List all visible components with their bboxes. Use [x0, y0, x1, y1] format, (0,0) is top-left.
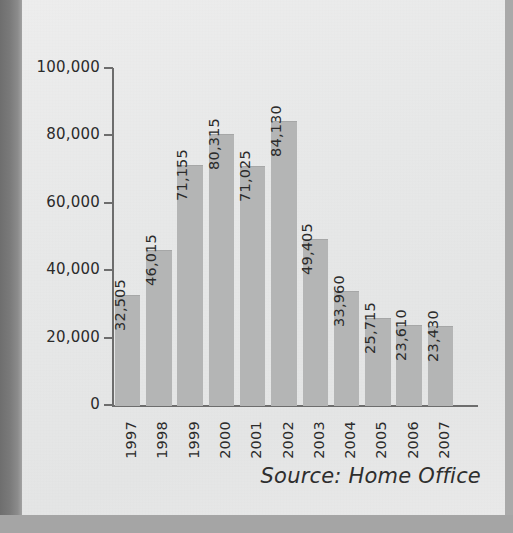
bar-slot: 23,430: [425, 68, 456, 406]
x-axis-tick-label: 2000: [206, 412, 237, 448]
bar: [177, 165, 203, 406]
bar-value-label: 33,960: [331, 275, 347, 327]
bar-value-label: 49,405: [299, 223, 315, 275]
bar-value-label: 46,015: [143, 234, 159, 286]
bar-slot: 49,405: [300, 68, 331, 406]
bar-chart: 020,00040,00060,00080,000100,000 32,5054…: [22, 0, 505, 515]
y-axis-tick-label: 60,000: [24, 193, 100, 211]
x-axis-tick-label: 2007: [425, 412, 456, 448]
y-axis-tick-label: 0: [24, 395, 100, 413]
x-axis-tick-label: 2006: [394, 412, 425, 448]
bar-value-label: 80,315: [206, 118, 222, 170]
bar-slot: 32,505: [112, 68, 143, 406]
bar-slot: 71,155: [175, 68, 206, 406]
x-axis-tick-label: 1999: [175, 412, 206, 448]
bar: [209, 134, 235, 406]
y-axis-tick-label: 40,000: [24, 260, 100, 278]
bar-slot: 25,715: [362, 68, 393, 406]
y-axis-tick-label: 100,000: [24, 58, 100, 76]
bar-value-label: 23,610: [393, 309, 409, 361]
bar-slot: 84,130: [269, 68, 300, 406]
x-axis-tick-label: 2004: [331, 412, 362, 448]
x-axis-tick-label: 2003: [300, 412, 331, 448]
bar-value-label: 71,155: [174, 149, 190, 201]
bar-value-label: 84,130: [268, 106, 284, 158]
y-axis-tick-label: 20,000: [24, 328, 100, 346]
bar-slot: 71,025: [237, 68, 268, 406]
x-axis-tick-label: 2002: [269, 412, 300, 448]
bar-series-group: 32,50546,01571,15580,31571,02584,13049,4…: [112, 68, 478, 406]
bar-slot: 33,960: [331, 68, 362, 406]
bar-slot: 80,315: [206, 68, 237, 406]
bar-value-label: 71,025: [237, 150, 253, 202]
page-gutter-shadow: [0, 0, 22, 533]
page-edge-right: [505, 0, 513, 533]
y-axis-tick-label: 80,000: [24, 125, 100, 143]
x-axis-tick-label: 2001: [237, 412, 268, 448]
x-axis-tick-label: 1998: [143, 412, 174, 448]
bar-slot: 46,015: [143, 68, 174, 406]
bar-value-label: 32,505: [112, 279, 128, 331]
x-axis-tick-label: 1997: [112, 412, 143, 448]
paper-page: 020,00040,00060,00080,000100,000 32,5054…: [22, 0, 505, 515]
x-axis-tick-label: 2005: [362, 412, 393, 448]
bar-value-label: 25,715: [362, 302, 378, 354]
scanned-page-figure: 020,00040,00060,00080,000100,000 32,5054…: [0, 0, 513, 533]
bar: [271, 121, 297, 406]
source-note: Source: Home Office: [261, 464, 481, 488]
bar-value-label: 23,430: [425, 310, 441, 362]
page-edge-bottom: [0, 515, 513, 533]
bar-slot: 23,610: [394, 68, 425, 406]
